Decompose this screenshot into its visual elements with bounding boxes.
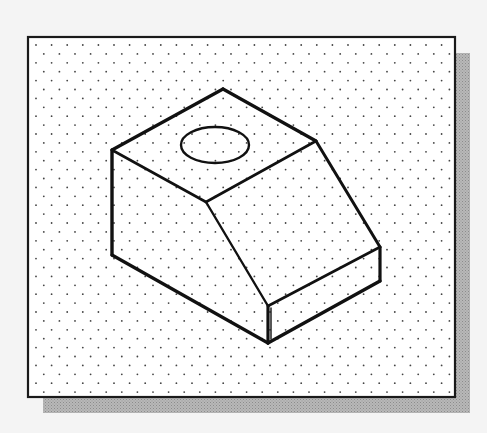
isometric-drawing — [0, 0, 487, 433]
drawing-frame — [28, 37, 455, 397]
figure-stage: Isometric sketch of a block with a slope… — [0, 0, 487, 433]
